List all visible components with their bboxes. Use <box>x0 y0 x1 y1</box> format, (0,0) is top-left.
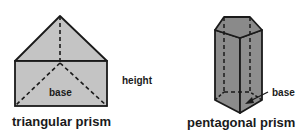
pentagonal-prism-left-face <box>215 30 240 113</box>
pentagonal-prism-title: pentagonal prism <box>187 115 295 130</box>
triangular-prism-top-face <box>15 16 107 61</box>
pentagonal-prism: base pentagonal prism <box>187 17 295 130</box>
prism-diagram: base height triangular prism base pentag… <box>0 0 306 134</box>
triangular-base-label: base <box>49 87 72 98</box>
triangular-prism-title: triangular prism <box>12 114 111 129</box>
triangular-prism: base height triangular prism <box>12 16 153 129</box>
pentagonal-base-label: base <box>272 87 295 98</box>
triangular-prism-front-face <box>15 61 107 106</box>
height-label: height <box>122 75 153 86</box>
